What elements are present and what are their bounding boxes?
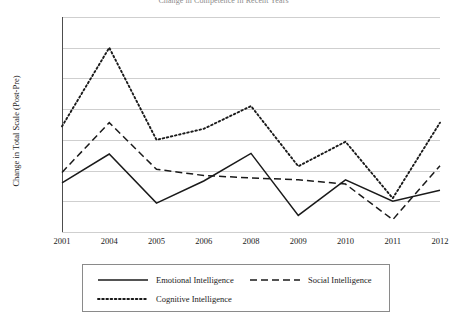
- x-axis-tick-label: 2005: [135, 236, 179, 246]
- gridline: [62, 232, 440, 233]
- chart-title: Change in Competence in Recent Years: [0, 0, 447, 5]
- y-axis-title: Change in Total Scale (Post-Pre): [11, 31, 21, 231]
- legend-line-sample: [97, 294, 149, 304]
- legend-label: Emotional Intelligence: [156, 275, 234, 285]
- x-axis-tick-label: 2006: [182, 236, 226, 246]
- plot-area: 00.511.522.533.5 20012004200520062008200…: [62, 17, 440, 232]
- legend-label: Cognitive Intelligence: [156, 294, 232, 304]
- x-axis-tick-label: 2012: [418, 236, 453, 246]
- x-axis-tick-label: 2009: [276, 236, 320, 246]
- series-line-social-intelligence: [62, 123, 440, 220]
- x-axis-tick-label: 2004: [87, 236, 131, 246]
- legend-row-1: Emotional IntelligenceSocial Intelligenc…: [83, 272, 389, 288]
- legend-line-sample: [97, 275, 149, 285]
- x-axis-tick-label: 2001: [40, 236, 84, 246]
- legend-label: Social Intelligence: [308, 275, 372, 285]
- series-line-emotional-intelligence: [62, 153, 440, 215]
- legend-row-2: Cognitive Intelligence: [83, 291, 389, 307]
- x-axis-tick-label: 2008: [229, 236, 273, 246]
- x-axis-tick-label: 2010: [324, 236, 368, 246]
- legend-line-sample: [249, 275, 301, 285]
- chart-legend: Emotional IntelligenceSocial Intelligenc…: [82, 264, 390, 312]
- x-axis-tick-label: 2011: [371, 236, 415, 246]
- legend-item-emotional-intelligence[interactable]: Emotional Intelligence: [97, 272, 234, 288]
- legend-item-social-intelligence[interactable]: Social Intelligence: [249, 272, 372, 288]
- series-line-cognitive-intelligence: [62, 48, 440, 199]
- series-lines: [62, 17, 440, 232]
- legend-item-cognitive-intelligence[interactable]: Cognitive Intelligence: [97, 291, 232, 307]
